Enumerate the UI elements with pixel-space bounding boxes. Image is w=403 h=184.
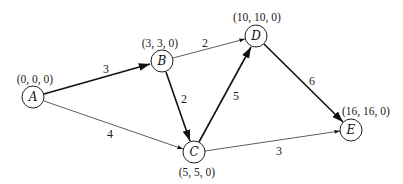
edges xyxy=(44,39,343,151)
weight-a-b: 3 xyxy=(103,62,109,76)
weight-b-c: 2 xyxy=(181,92,187,106)
edge-a-b xyxy=(44,64,150,94)
node-b-label: B xyxy=(157,54,167,68)
node-a-label: A xyxy=(28,90,38,104)
node-b-annotation: (3, 3, 0) xyxy=(142,37,179,50)
edge-b-d xyxy=(173,39,245,58)
weight-c-e: 3 xyxy=(276,144,282,158)
graph-diagram: 3 4 2 2 5 3 6 A (0, 0, 0) B (3, 3, 0) C … xyxy=(0,0,403,184)
edge-a-c xyxy=(44,101,183,149)
weight-d-e: 6 xyxy=(309,74,315,88)
node-e-annotation: (16, 16, 0) xyxy=(342,105,390,118)
weight-c-d: 5 xyxy=(233,89,239,103)
weight-b-d: 2 xyxy=(202,36,208,50)
node-e-label: E xyxy=(346,123,356,137)
node-d-label: D xyxy=(250,29,261,43)
node-c: C (5, 5, 0) xyxy=(179,141,216,179)
edge-c-e xyxy=(205,131,340,151)
edge-d-e xyxy=(264,44,343,122)
edge-c-d xyxy=(199,47,251,142)
node-a-annotation: (0, 0, 0) xyxy=(17,73,54,86)
node-d: D (10, 10, 0) xyxy=(233,11,281,47)
node-d-annotation: (10, 10, 0) xyxy=(233,11,281,24)
node-e: E (16, 16, 0) xyxy=(340,105,390,141)
edge-b-c xyxy=(166,72,190,141)
node-c-label: C xyxy=(189,145,198,159)
weight-a-c: 4 xyxy=(107,127,113,141)
node-c-annotation: (5, 5, 0) xyxy=(179,166,216,179)
node-b: B (3, 3, 0) xyxy=(142,37,179,72)
